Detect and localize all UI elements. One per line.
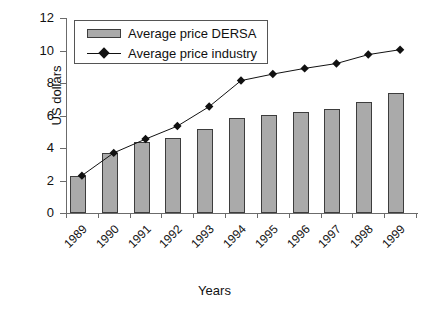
y-axis-tick-label: 0 [28,206,54,219]
x-axis-category-label: 1991 [125,222,154,251]
y-axis-tick-label: 2 [28,174,54,187]
y-axis-tick-label: 10 [28,44,54,57]
line-marker-diamond [110,149,118,157]
x-axis-category-label: 1996 [284,222,313,251]
y-axis-tick-label: 12 [28,11,54,24]
legend-label: Average price DERSA [128,26,256,41]
line-marker-diamond [332,59,340,67]
legend-item-average-price-industry: Average price industry [75,42,269,64]
x-axis-category-label: 1997 [316,222,345,251]
chart-figure: US dollars 024681012 1989199019911992199… [0,0,429,309]
x-axis-category-label: 1990 [93,222,122,251]
y-axis-tick-label: 8 [28,76,54,89]
x-axis-category-label: 1999 [379,222,408,251]
y-axis-tick-label: 6 [28,109,54,122]
x-axis-category-label: 1998 [347,222,376,251]
line-marker-diamond [396,45,404,53]
line-diamond-swatch-icon [87,48,121,59]
line-marker-diamond [300,64,308,72]
x-axis-category-label: 1992 [156,222,185,251]
x-axis-category-label: 1993 [188,222,217,251]
line-marker-diamond [141,135,149,143]
x-axis-category-label: 1995 [252,222,281,251]
y-axis-tick-label: 4 [28,141,54,154]
bar-swatch-icon [87,29,121,38]
x-axis-category-label: 1994 [220,222,249,251]
legend: Average price DERSA Average price indust… [74,20,268,64]
line-marker-diamond [173,122,181,130]
legend-item-average-price-dersa: Average price DERSA [75,22,269,44]
line-path [82,50,400,176]
line-marker-diamond [269,70,277,78]
line-marker-diamond [78,171,86,179]
x-axis-title: Years [0,283,429,298]
line-marker-diamond [364,50,372,58]
x-axis-category-label: 1989 [61,222,90,251]
legend-label: Average price industry [128,46,257,61]
